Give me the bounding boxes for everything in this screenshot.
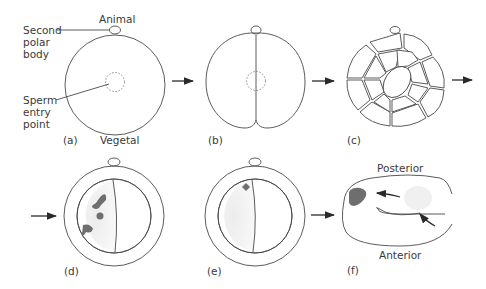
embryo-development-diagram: Animal Second polar body Sperm entry poi… — [0, 0, 486, 289]
second-polar-body-line1: Second — [23, 24, 62, 36]
panel-label-d: (d) — [64, 265, 79, 277]
panel-label-b: (b) — [208, 134, 223, 146]
migration-arrow — [377, 193, 400, 197]
polar-body — [249, 158, 261, 166]
sperm-entry-circle — [106, 73, 125, 92]
marked-patch — [97, 213, 104, 220]
panel-label-f: (f) — [347, 264, 359, 276]
sperm-entry-line3: point — [23, 118, 50, 130]
sperm-entry-line1: Sperm — [23, 94, 57, 106]
polar-body — [108, 158, 120, 166]
vegetal-label: Vegetal — [100, 134, 139, 146]
panel-label-e: (e) — [207, 265, 222, 277]
gut-loop — [377, 208, 445, 215]
animal-label: Animal — [99, 13, 135, 25]
egg-outline — [65, 35, 165, 135]
panel-label-c: (c) — [347, 134, 361, 146]
outer-cell — [370, 33, 402, 52]
shaded-half — [224, 180, 255, 252]
panel-a: Animal Second polar body Sperm entry poi… — [23, 13, 165, 146]
polar-body — [390, 27, 400, 34]
second-polar-body-line3: body — [23, 48, 49, 60]
panel-c: (c) — [347, 27, 444, 147]
panel-b: (b) — [206, 26, 305, 146]
second-polar-body-line2: polar — [23, 36, 50, 48]
light-region — [404, 186, 432, 210]
panel-label-a: (a) — [63, 134, 78, 146]
panel-f: Posterior Anterior (f) — [342, 162, 452, 276]
two-cell-outline — [206, 33, 305, 128]
sperm-entry-leader — [56, 84, 109, 100]
marked-region — [349, 188, 367, 206]
pointing-arrow — [420, 214, 435, 226]
larva-outline — [342, 175, 452, 246]
panel-e: (e) — [205, 158, 305, 277]
posterior-label: Posterior — [377, 162, 424, 174]
anterior-label: Anterior — [379, 249, 422, 261]
polar-body — [110, 26, 121, 34]
sperm-entry-line2: entry — [23, 106, 51, 118]
panel-d: (d) — [64, 158, 164, 277]
